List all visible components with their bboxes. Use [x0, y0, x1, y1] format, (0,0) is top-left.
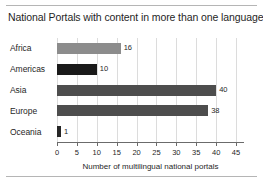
bar-value-label: 16 — [124, 43, 132, 52]
x-tick — [137, 142, 138, 146]
bottom-divider — [6, 176, 257, 177]
x-tick — [156, 142, 157, 146]
bar-value-label: 1 — [64, 127, 68, 136]
plot-area: 161040381 051015202530354045 — [57, 38, 244, 142]
category-axis-labels: AfricaAmericasAsiaEuropeOceania — [0, 38, 57, 142]
chart-figure: National Portals with content in more th… — [0, 0, 263, 182]
bar — [57, 43, 121, 54]
bar — [57, 105, 208, 116]
x-tick — [216, 142, 217, 146]
plot-wrapper: AfricaAmericasAsiaEuropeOceania 16104038… — [0, 38, 263, 150]
x-tick — [97, 142, 98, 146]
x-tick — [236, 142, 237, 146]
x-tick — [176, 142, 177, 146]
category-label: Asia — [10, 85, 26, 95]
x-tick-label: 45 — [232, 148, 240, 157]
x-tick-label: 15 — [113, 148, 121, 157]
category-label: Europe — [10, 106, 37, 116]
bar-value-label: 10 — [100, 64, 108, 73]
x-tick-label: 10 — [93, 148, 101, 157]
x-tick — [117, 142, 118, 146]
bar-value-label: 38 — [211, 106, 219, 115]
top-divider — [6, 5, 257, 6]
x-tick-label: 40 — [212, 148, 220, 157]
bar — [57, 64, 97, 75]
gridline — [236, 38, 237, 142]
x-tick-label: 35 — [192, 148, 200, 157]
x-tick-label: 30 — [172, 148, 180, 157]
bar-value-label: 40 — [219, 85, 227, 94]
x-tick — [57, 142, 58, 146]
x-tick-label: 5 — [75, 148, 79, 157]
category-label: Africa — [10, 43, 31, 53]
x-axis-title: Number of multilingual national portals — [57, 162, 244, 171]
chart-title: National Portals with content in more th… — [8, 10, 263, 24]
x-tick-label: 0 — [55, 148, 59, 157]
category-label: Americas — [10, 64, 45, 74]
x-tick — [196, 142, 197, 146]
gridline — [216, 38, 217, 142]
x-tick — [77, 142, 78, 146]
x-tick-label: 25 — [152, 148, 160, 157]
bar — [57, 126, 61, 137]
category-label: Oceania — [10, 127, 41, 137]
x-tick-label: 20 — [132, 148, 140, 157]
bar — [57, 85, 216, 96]
